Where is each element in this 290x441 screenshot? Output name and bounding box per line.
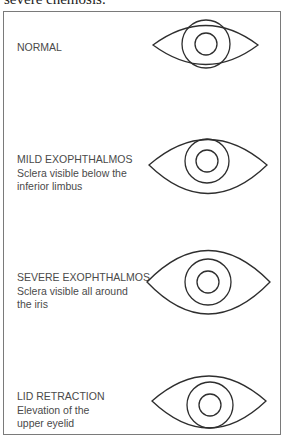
pupil-normal <box>195 33 217 55</box>
pupil-mild <box>196 150 218 172</box>
eye-severe-exophthalmos-icon <box>147 251 270 315</box>
iris-mild <box>185 139 229 183</box>
eye-normal-icon <box>153 20 258 68</box>
eyelid-outline-lid-retraction <box>152 376 266 428</box>
eye-mild-exophthalmos-icon <box>149 139 267 194</box>
iris-severe <box>185 259 231 305</box>
iris-normal <box>182 20 230 68</box>
eye-diagrams <box>0 0 290 441</box>
pupil-severe <box>197 271 219 293</box>
eye-lid-retraction-icon <box>152 376 266 428</box>
eyelid-outline-mild <box>149 140 267 194</box>
iris-lid-retraction <box>187 382 233 428</box>
eyelid-outline-normal <box>153 26 258 65</box>
pupil-lid-retraction <box>199 394 221 416</box>
